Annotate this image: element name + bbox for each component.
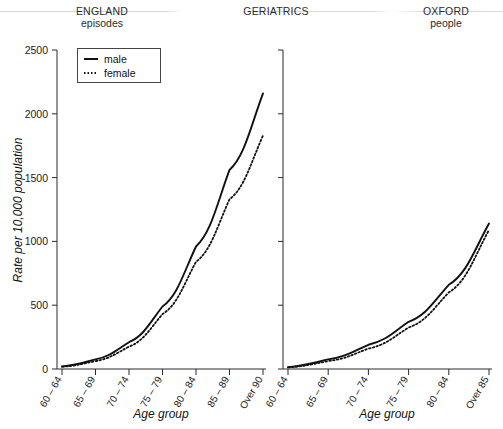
left-panel-female-line <box>62 135 263 366</box>
right-panel-x-categories: 60 – 6465 – 6970 – 7475 – 7980 – 84Over … <box>264 374 491 411</box>
chart-canvas: Rate per 10,000 population 0500100015002… <box>0 0 503 429</box>
y-tick-label-2500: 2500 <box>25 44 49 56</box>
y-axis: 05001000150020002500 <box>25 44 57 375</box>
header-england-line2: episodes <box>46 17 158 29</box>
x-category-label: 65 – 69 <box>304 374 330 409</box>
header-oxford-line1: OXFORD <box>396 5 496 17</box>
header-geriatrics-line1: GERIATRICS <box>196 5 356 17</box>
right-panel-female-line <box>288 230 489 367</box>
right-panel-x-axis-title: Age group <box>358 407 415 421</box>
header-england: ENGLAND episodes <box>46 5 158 29</box>
header-oxford-line2: people <box>396 17 496 29</box>
x-category-label: 80 – 84 <box>424 374 450 409</box>
y-tick-label-2000: 2000 <box>25 108 49 120</box>
x-category-label: 70 – 74 <box>105 374 131 409</box>
x-category-label: 65 – 69 <box>71 374 97 409</box>
y-tick-label-1500: 1500 <box>25 172 49 184</box>
x-category-label: 60 – 64 <box>264 374 290 409</box>
left-panel-x-axis-title: Age group <box>132 407 189 421</box>
x-category-label: Over 90 <box>237 374 265 411</box>
left-panel-x-ticks <box>62 369 263 375</box>
right-panel-male-line <box>288 224 489 368</box>
x-category-label: 60 – 64 <box>38 374 64 409</box>
y-tick-label-500: 500 <box>30 299 48 311</box>
right-panel-x-ticks <box>288 369 489 375</box>
left-panel-male-line <box>62 93 263 366</box>
panel-oxford: 60 – 6465 – 6970 – 7475 – 7980 – 84Over … <box>264 50 492 421</box>
y-tick-label-0: 0 <box>42 363 48 375</box>
legend-male-label: male <box>104 53 127 65</box>
right-panel-y-ticks <box>278 50 283 369</box>
x-category-label: 70 – 74 <box>344 374 370 409</box>
panel-england: 60 – 6465 – 6970 – 7475 – 7980 – 8485 – … <box>38 50 266 421</box>
y-axis-title: Rate per 10,000 population <box>11 137 25 282</box>
legend-female-label: female <box>104 67 136 79</box>
geriatrics-rate-figure: ENGLAND episodes GERIATRICS OXFORD peopl… <box>0 0 503 429</box>
header-england-line1: ENGLAND <box>46 5 158 17</box>
header-geriatrics: GERIATRICS <box>196 5 356 17</box>
x-category-label: 80 – 84 <box>172 374 198 409</box>
left-panel-x-categories: 60 – 6465 – 6970 – 7475 – 7980 – 8485 – … <box>38 374 265 411</box>
x-category-label: 75 – 79 <box>384 374 410 409</box>
x-category-label: Over 85 <box>463 374 491 411</box>
header-oxford: OXFORD people <box>396 5 496 29</box>
y-tick-label-1000: 1000 <box>25 235 49 247</box>
x-category-label: 85 – 89 <box>205 374 231 409</box>
x-category-label: 75 – 79 <box>138 374 164 409</box>
legend: male female <box>78 49 161 83</box>
